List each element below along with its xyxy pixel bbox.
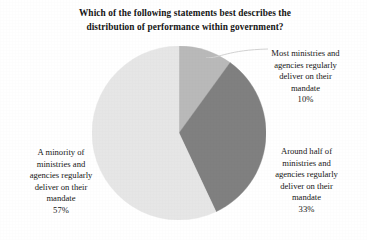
slice-label-most: Most ministries and agencies regularly d… [244,48,367,106]
slice-label-around-line-3: agencies regularly [246,169,367,181]
slice-label-most-line-2: agencies regularly [244,60,367,72]
slice-label-around-line-2: ministries and [246,158,367,170]
slice-label-most-line-4: mandate [244,83,367,95]
chart-title: Which of the following statements best d… [40,7,330,34]
slice-label-around-line-5: mandate [246,192,367,204]
slice-value-around: 33% [246,204,367,216]
slice-label-minority-line-5: mandate [2,193,120,205]
pie-chart-figure: Which of the following statements best d… [0,0,367,240]
slice-label-minority-line-3: agencies regularly [2,170,120,182]
chart-title-line-2: distribution of performance within gover… [40,21,330,35]
chart-title-line-1: Which of the following statements best d… [40,7,330,21]
slice-label-minority-line-4: deliver on their [2,182,120,194]
slice-label-around-line-1: Around half of [246,146,367,158]
slice-label-minority-line-1: A minority of [2,147,120,159]
slice-label-minority: A minority of ministries and agencies re… [2,147,120,217]
slice-value-most: 10% [244,94,367,106]
slice-label-around-line-4: deliver on their [246,181,367,193]
slice-value-minority: 57% [2,205,120,217]
slice-label-minority-line-2: ministries and [2,159,120,171]
slice-label-around: Around half of ministries and agencies r… [246,146,367,216]
slice-label-most-line-1: Most ministries and [244,48,367,60]
slice-label-most-line-3: deliver on their [244,71,367,83]
